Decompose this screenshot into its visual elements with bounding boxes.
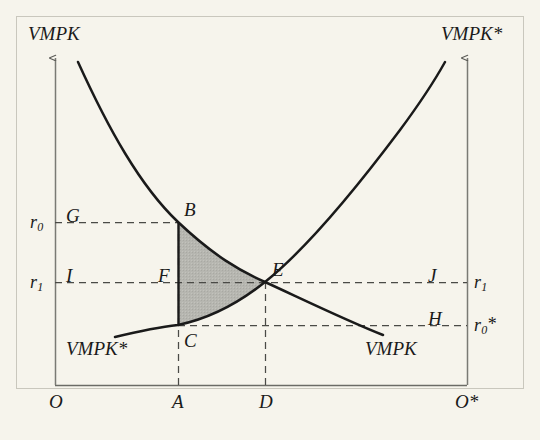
curve-label-vmpk-star: VMPK* bbox=[66, 339, 127, 358]
rate-subscript: 1 bbox=[481, 280, 487, 294]
rate-label-r1-left: r1 bbox=[30, 272, 44, 293]
rate-subscript: 0 bbox=[481, 323, 487, 337]
x-tick-label-A: A bbox=[172, 392, 184, 411]
figure-frame bbox=[17, 17, 524, 389]
curve-label-vmpk: VMPK bbox=[365, 339, 417, 358]
point-label-J: J bbox=[428, 266, 436, 285]
x-tick-label-D: D bbox=[259, 392, 273, 411]
point-label-E: E bbox=[272, 260, 284, 279]
rate-label-r0-star-right: r0* bbox=[474, 315, 497, 336]
point-label-H: H bbox=[428, 309, 442, 328]
diagram-canvas bbox=[0, 0, 540, 440]
rate-base: r bbox=[30, 272, 37, 292]
x-tick-label-O-star: O* bbox=[455, 392, 478, 411]
point-label-I: I bbox=[66, 266, 72, 285]
point-label-C: C bbox=[184, 331, 197, 350]
capital-flows-diagram: VMPK VMPK* VMPK* VMPK r0 r1 r1 r0* G B I… bbox=[0, 0, 540, 440]
rate-subscript: 0 bbox=[37, 220, 43, 234]
rate-base: r bbox=[474, 315, 481, 335]
x-tick-label-O: O bbox=[49, 392, 63, 411]
rate-star: * bbox=[488, 314, 497, 334]
rate-label-r1-right: r1 bbox=[474, 272, 488, 293]
point-label-B: B bbox=[184, 200, 196, 219]
rate-base: r bbox=[474, 272, 481, 292]
rate-label-r0-left: r0 bbox=[30, 212, 44, 233]
point-label-F: F bbox=[158, 266, 170, 285]
point-label-G: G bbox=[66, 206, 80, 225]
left-axis-title: VMPK bbox=[28, 24, 80, 43]
right-axis-title: VMPK* bbox=[441, 24, 502, 43]
rate-subscript: 1 bbox=[37, 280, 43, 294]
rate-base: r bbox=[30, 212, 37, 232]
curve-vmpk-star bbox=[115, 62, 445, 337]
